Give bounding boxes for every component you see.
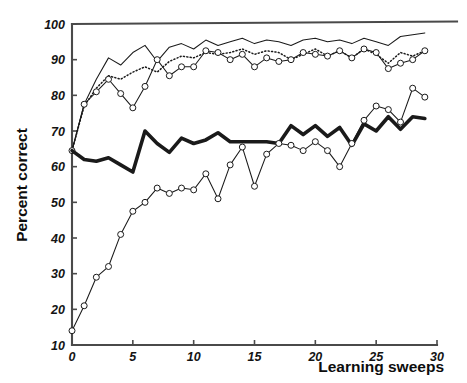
data-point-marker <box>215 50 221 56</box>
data-point-marker <box>130 208 136 214</box>
data-point-marker <box>252 183 258 189</box>
data-point-marker <box>325 148 331 154</box>
data-point-marker <box>81 101 87 107</box>
data-point-marker <box>337 48 343 54</box>
data-point-marker <box>154 185 160 191</box>
y-axis-title: Percent correct <box>13 128 30 242</box>
data-point-marker <box>106 264 112 270</box>
data-point-marker <box>312 51 318 57</box>
series-line <box>72 117 425 172</box>
data-point-marker <box>276 58 282 64</box>
data-point-marker <box>288 57 294 63</box>
x-axis-title: Learning sweeps <box>318 358 444 375</box>
series-line <box>72 49 425 151</box>
data-series-layer <box>69 33 428 334</box>
data-point-marker <box>385 107 391 113</box>
data-point-marker <box>373 103 379 109</box>
data-point-marker <box>179 64 185 70</box>
chart-canvas: 102030405060708090100051015202530 Percen… <box>0 0 467 383</box>
series-upper-solid-thin <box>72 33 425 151</box>
data-point-marker <box>166 73 172 79</box>
data-point-marker <box>69 328 75 334</box>
data-point-marker <box>422 48 428 54</box>
series-middle-thick <box>72 117 425 172</box>
data-point-marker <box>142 199 148 205</box>
data-point-marker <box>288 142 294 148</box>
data-point-marker <box>93 274 99 280</box>
data-point-marker <box>179 185 185 191</box>
data-point-marker <box>264 55 270 61</box>
x-tick-label: 0 <box>69 350 76 364</box>
data-point-marker <box>276 140 282 146</box>
data-point-marker <box>264 151 270 157</box>
data-point-marker <box>349 55 355 61</box>
data-point-marker <box>300 50 306 56</box>
data-point-marker <box>166 190 172 196</box>
data-point-marker <box>118 91 124 97</box>
tick-label-layer: 102030405060708090100051015202530 <box>44 18 444 365</box>
x-tick-label: 10 <box>187 350 201 364</box>
data-point-marker <box>422 94 428 100</box>
x-tick-label: 5 <box>129 350 137 364</box>
data-point-marker <box>239 51 245 57</box>
data-point-marker <box>398 60 404 66</box>
data-point-marker <box>142 83 148 89</box>
series-upper-dotted <box>72 49 425 151</box>
data-point-marker <box>252 64 258 70</box>
data-point-marker <box>215 196 221 202</box>
y-tick-label: 20 <box>50 303 65 317</box>
data-point-marker <box>203 48 209 54</box>
data-point-marker <box>154 57 160 63</box>
x-tick-label: 15 <box>248 350 263 364</box>
data-point-marker <box>203 171 209 177</box>
series-lower-circles <box>69 85 428 334</box>
data-point-marker <box>385 66 391 72</box>
series-line <box>72 49 425 151</box>
data-point-marker <box>325 53 331 59</box>
data-point-marker <box>81 303 87 309</box>
y-tick-label: 100 <box>44 18 65 32</box>
y-tick-label: 10 <box>51 339 65 353</box>
data-point-marker <box>191 64 197 70</box>
y-tick-label: 60 <box>51 160 65 174</box>
data-point-marker <box>349 140 355 146</box>
data-point-marker <box>312 139 318 145</box>
data-point-marker <box>410 57 416 63</box>
y-tick-label: 30 <box>51 267 65 281</box>
y-tick-label: 50 <box>51 196 65 210</box>
y-tick-label: 80 <box>51 89 65 103</box>
axis-lines <box>72 22 457 346</box>
data-point-marker <box>373 50 379 56</box>
y-tick-label: 70 <box>51 125 65 139</box>
data-point-marker <box>239 144 245 150</box>
data-point-marker <box>361 117 367 123</box>
y-tick-label: 40 <box>50 232 65 246</box>
data-point-marker <box>106 76 112 82</box>
data-point-marker <box>191 187 197 193</box>
data-point-marker <box>130 105 136 111</box>
series-line <box>72 88 425 331</box>
data-point-marker <box>300 148 306 154</box>
data-point-marker <box>398 119 404 125</box>
y-tick-label: 90 <box>51 53 65 67</box>
chart-figure: 102030405060708090100051015202530 Percen… <box>0 0 467 383</box>
data-point-marker <box>337 164 343 170</box>
data-point-marker <box>93 89 99 95</box>
data-point-marker <box>118 231 124 237</box>
data-point-marker <box>227 162 233 168</box>
data-point-marker <box>227 57 233 63</box>
data-point-marker <box>410 85 416 91</box>
data-point-marker <box>361 46 367 52</box>
series-line <box>72 33 425 151</box>
